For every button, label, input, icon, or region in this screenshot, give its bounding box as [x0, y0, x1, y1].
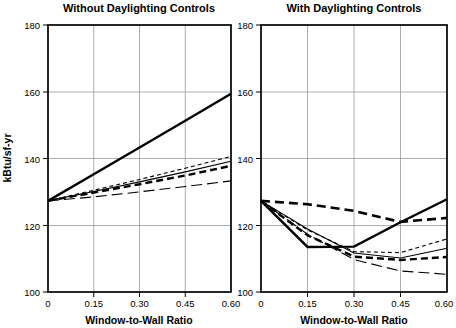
y-ticklabels-right: 180 160 140 120 100: [237, 20, 253, 298]
x-tick-label-015-left: 0.15: [85, 298, 104, 309]
y-tick-label-120-left: 120: [24, 221, 40, 232]
y-tick-label-160-left: 160: [24, 87, 40, 98]
x-tick-label-030-left: 0.30: [130, 298, 149, 309]
x-ticklabels-left: 0 0.15 0.30 0.45 0.60: [45, 298, 240, 309]
x-tick-label-060-right: 0.60: [435, 298, 454, 309]
daylighting-controls-chart-figure: Without Daylighting Controls 180 160 140…: [0, 0, 456, 328]
gridlines-left: [48, 25, 231, 292]
x-ticklabels-right: 0 0.15 0.30 0.45 0.60: [258, 298, 453, 309]
x-tick-label-030-right: 0.30: [345, 298, 364, 309]
x-tick-label-045-left: 0.45: [176, 298, 195, 309]
y-tick-label-160-right: 160: [237, 87, 253, 98]
x-axis-label-left: Window-to-Wall Ratio: [85, 314, 192, 326]
x-tick-label-015-right: 0.15: [298, 298, 317, 309]
x-tick-label-060-left: 0.60: [222, 298, 241, 309]
x-tick-label-0-right: 0: [258, 298, 263, 309]
x-axis-label-right: Window-to-Wall Ratio: [300, 314, 407, 326]
panel-without-daylighting: Without Daylighting Controls 180 160 140…: [24, 2, 240, 326]
panel-title-left: Without Daylighting Controls: [63, 2, 215, 14]
y-axis-label: kBtu/sf-yr: [1, 133, 13, 182]
x-tick-label-0-left: 0: [45, 298, 50, 309]
y-tick-label-180-left: 180: [24, 20, 40, 31]
y-tick-label-180-right: 180: [237, 20, 253, 31]
y-tick-label-100-left: 100: [24, 287, 40, 298]
panel-title-right: With Daylighting Controls: [287, 2, 422, 14]
y-tick-label-140-left: 140: [24, 154, 40, 165]
y-tick-label-120-right: 120: [237, 221, 253, 232]
x-tick-label-045-right: 0.45: [391, 298, 410, 309]
y-tick-label-100-right: 100: [237, 287, 253, 298]
y-tick-label-140-right: 140: [237, 154, 253, 165]
panel-with-daylighting: With Daylighting Controls 180 160 140 12…: [237, 2, 453, 326]
y-ticklabels-left: 180 160 140 120 100: [24, 20, 40, 298]
